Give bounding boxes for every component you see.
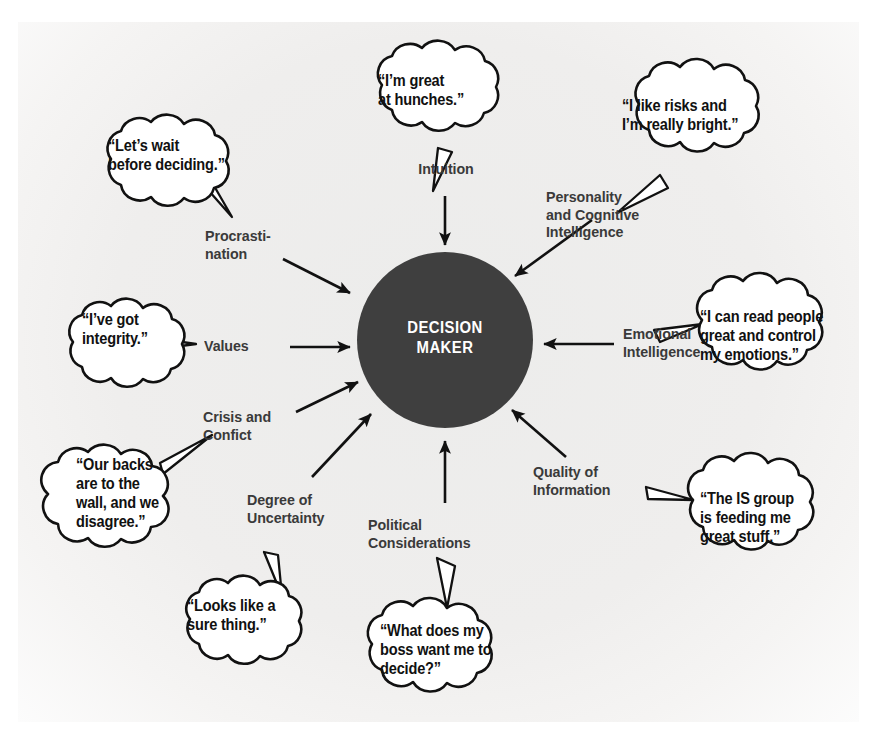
quote-values: “I’ve got integrity.” <box>82 310 208 348</box>
arrow-quality-of-information <box>512 410 566 457</box>
quote-political-considerations: “What does my boss want me to decide?” <box>380 621 551 678</box>
node-label-values: Values <box>204 337 287 355</box>
quote-procrastination: “Let’s wait before deciding.” <box>108 136 270 174</box>
node-label-intuition: Intuition <box>400 160 492 178</box>
quote-crisis-and-confict: “Our backs are to the wall, and we disag… <box>76 455 220 531</box>
quote-intuition: “I’m great at hunches.” <box>378 71 504 109</box>
node-label-procrastination: Procrasti- nation <box>205 227 334 262</box>
arrow-procrastination <box>283 259 350 293</box>
diagram-canvas: DECISION MAKER Intuition Personality and… <box>0 0 877 742</box>
decision-maker-label: DECISION MAKER <box>380 318 510 359</box>
quote-quality-of-information: “The IS group is feeding me great stuff.… <box>700 489 853 546</box>
node-label-personality-cognitive-intelligence: Personality and Cognitive Intelligence <box>546 188 702 241</box>
node-label-political-considerations: Political Considerations <box>368 516 524 551</box>
quote-personality-cognitive-intelligence: “I like risks and I’m really bright.” <box>622 96 789 134</box>
node-label-degree-of-uncertainty: Degree of Uncertainty <box>247 491 376 526</box>
node-label-crisis-and-confict: Crisis and Confict <box>203 408 323 443</box>
quote-emotional-intelligence: “I can read people great and control my … <box>700 307 871 364</box>
quote-degree-of-uncertainty: “Looks like a sure thing.” <box>187 596 331 634</box>
node-label-quality-of-information: Quality of Information <box>533 463 662 498</box>
